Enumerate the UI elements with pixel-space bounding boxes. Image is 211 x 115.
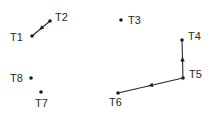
node-t3: T3 [119, 14, 141, 26]
node-t4: T4 [180, 30, 201, 42]
node-t7: T7 [35, 90, 48, 109]
edge-t5-t6 [118, 78, 183, 93]
arrowhead-icon [180, 57, 184, 62]
node-t2: T2 [48, 11, 68, 23]
node-label: T5 [189, 68, 202, 80]
node-t8: T8 [10, 72, 33, 84]
node-dot [181, 76, 185, 80]
nodes-group: T1T2T3T4T5T6T7T8 [10, 11, 202, 109]
node-label: T2 [55, 11, 68, 23]
node-label: T4 [188, 30, 201, 42]
node-t1: T1 [10, 31, 34, 43]
node-dot [116, 91, 120, 95]
edge-t2-t1 [32, 21, 50, 36]
edge-t5-t4 [180, 40, 184, 78]
node-dot [39, 90, 43, 94]
node-t5: T5 [181, 68, 202, 80]
node-dot [180, 38, 184, 42]
node-dot [119, 18, 123, 22]
node-dot [48, 19, 52, 23]
node-label: T6 [109, 96, 122, 108]
node-label: T7 [35, 97, 48, 109]
graph-diagram: T1T2T3T4T5T6T7T8 [0, 0, 211, 115]
node-label: T8 [10, 72, 23, 84]
node-t6: T6 [109, 91, 122, 108]
node-dot [29, 76, 33, 80]
edges-group [32, 21, 185, 93]
node-dot [30, 34, 34, 38]
node-label: T1 [10, 31, 23, 43]
node-label: T3 [128, 14, 141, 26]
